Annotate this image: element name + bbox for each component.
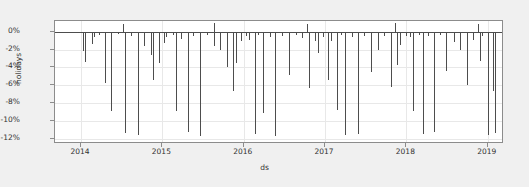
spike-bar-positive	[395, 23, 396, 31]
spike-bar	[220, 32, 221, 51]
spike-bar	[446, 32, 447, 71]
spike-bar	[454, 32, 455, 43]
y-axis-label: holidays	[14, 29, 23, 109]
x-tick-label: 2014	[60, 147, 100, 156]
x-tick-mark	[487, 143, 488, 147]
y-tick-mark	[50, 66, 54, 67]
spike-bar	[480, 32, 481, 61]
spike-bar	[315, 32, 316, 41]
spike-bar	[328, 32, 329, 80]
spike-bar	[181, 32, 182, 39]
x-tick-mark	[161, 143, 162, 147]
spike-bar	[118, 32, 119, 35]
y-tick-mark	[50, 31, 54, 32]
spike-bar	[193, 32, 194, 36]
spike-bar	[131, 32, 132, 36]
gridline-vertical	[244, 21, 245, 142]
x-tick-mark	[80, 143, 81, 147]
gridline-vertical	[406, 21, 407, 142]
x-tick-mark	[243, 143, 244, 147]
gridline-horizontal	[55, 139, 502, 140]
spike-bar	[85, 32, 86, 62]
spike-bar	[296, 32, 297, 36]
spike-bar	[99, 32, 100, 36]
spike-bar	[493, 32, 494, 91]
y-tick-mark	[50, 49, 54, 50]
gridline-vertical	[325, 21, 326, 142]
y-tick-label: -10%	[1, 116, 20, 124]
spike-bar	[176, 32, 177, 111]
spike-bar	[378, 32, 379, 50]
spike-bar	[406, 32, 407, 36]
spike-bar	[309, 32, 310, 88]
spike-bar	[289, 32, 290, 76]
spike-bar	[331, 32, 332, 41]
x-tick-mark	[405, 143, 406, 147]
spike-bar	[495, 32, 496, 134]
spike-bar	[188, 32, 189, 133]
x-tick-label: 2015	[141, 147, 181, 156]
spike-bar	[302, 32, 303, 38]
spike-bar	[397, 32, 398, 65]
y-tick-mark	[50, 84, 54, 85]
spike-bar	[384, 32, 385, 36]
spike-bar	[482, 32, 483, 36]
spike-bar	[214, 32, 215, 46]
spike-bar	[413, 32, 414, 111]
spike-bar	[428, 32, 429, 36]
spike-bar	[400, 32, 401, 45]
spike-bar	[105, 32, 106, 84]
spike-bar	[207, 32, 208, 36]
x-axis-label: ds	[0, 163, 529, 172]
spike-bar	[249, 32, 250, 40]
x-tick-mark	[324, 143, 325, 147]
spike-bar	[151, 32, 152, 55]
spike-bar	[246, 32, 247, 36]
y-tick-mark	[50, 102, 54, 103]
spike-bar	[473, 32, 474, 40]
spike-bar	[423, 32, 424, 135]
spike-bar	[345, 32, 346, 135]
spike-bar	[282, 32, 283, 36]
spike-bar	[236, 32, 237, 63]
spike-bar	[94, 32, 95, 37]
spike-bar	[159, 32, 160, 63]
y-tick-mark	[50, 120, 54, 121]
y-tick-mark	[50, 138, 54, 139]
spike-bar	[270, 32, 271, 37]
spike-bar	[460, 32, 461, 51]
spike-bar	[410, 32, 411, 37]
spike-bar	[364, 32, 365, 36]
spike-bar	[227, 32, 228, 68]
spike-bar	[241, 32, 242, 42]
spike-bar	[92, 32, 93, 44]
x-tick-label: 2019	[467, 147, 507, 156]
spike-bar	[173, 32, 174, 36]
spike-bar	[467, 32, 468, 85]
spike-bar	[255, 32, 256, 135]
spike-bar	[440, 32, 441, 36]
spike-bar	[83, 32, 84, 52]
spike-bar	[337, 32, 338, 110]
plot-area	[54, 20, 503, 143]
x-tick-label: 2016	[223, 147, 263, 156]
spike-bar-positive	[307, 24, 308, 32]
spike-bar	[138, 32, 139, 135]
spike-bar	[164, 32, 165, 44]
spike-bar	[323, 32, 324, 37]
spike-bar	[258, 32, 259, 36]
spike-bar	[275, 32, 276, 136]
spike-bar	[263, 32, 264, 113]
spike-bar	[233, 32, 234, 92]
spike-bar	[166, 32, 167, 37]
spike-bar	[144, 32, 145, 46]
spike-bar	[434, 32, 435, 133]
y-tick-label: -12%	[1, 134, 20, 142]
spike-bar-positive	[478, 24, 479, 32]
spike-bar	[371, 32, 372, 72]
spike-bar	[111, 32, 112, 111]
spike-bar	[419, 32, 420, 36]
spike-bar	[318, 32, 319, 53]
spike-bar	[153, 32, 154, 80]
spike-bar-positive	[123, 24, 124, 32]
